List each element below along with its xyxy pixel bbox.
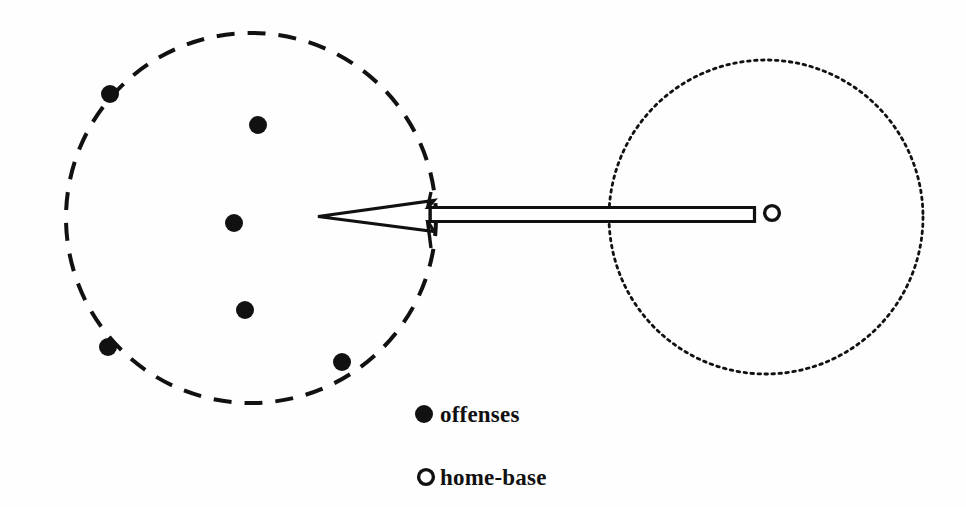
- offense-point: [225, 214, 243, 232]
- legend-label-home-base: home-base: [440, 465, 547, 491]
- offense-point: [249, 116, 267, 134]
- filled-circle-icon: [415, 405, 433, 423]
- figure-background: [0, 0, 966, 507]
- offense-point: [236, 301, 254, 319]
- figure-canvas: [0, 0, 966, 507]
- offense-point: [333, 353, 351, 371]
- crime-pattern-figure: offenses home-base: [0, 0, 966, 507]
- arrow-shaft: [430, 208, 755, 222]
- offense-point: [101, 85, 119, 103]
- home-base-point: [765, 206, 780, 221]
- legend-label-offenses: offenses: [440, 402, 520, 428]
- offense-point: [99, 338, 117, 356]
- open-circle-icon: [419, 470, 434, 485]
